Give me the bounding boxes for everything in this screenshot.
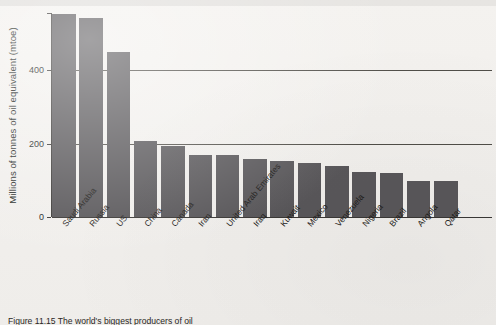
y-axis-title: Millions of tonnes of oil equivalent (mt… bbox=[7, 27, 18, 203]
y-tick-label: 400 bbox=[18, 65, 44, 75]
chart-plot-area: Millions of tonnes of oil equivalent (mt… bbox=[0, 0, 496, 325]
bar bbox=[134, 141, 158, 217]
figure-caption: Figure 11.15 The world's biggest produce… bbox=[8, 316, 193, 325]
figure-container: Millions of tonnes of oil equivalent (mt… bbox=[0, 0, 496, 325]
y-tick-label: 0 bbox=[18, 212, 44, 222]
bar bbox=[107, 52, 131, 217]
y-tick-label: 200 bbox=[18, 139, 44, 149]
bar bbox=[52, 14, 76, 217]
y-tick-mark bbox=[47, 217, 51, 218]
y-axis-title-container: Millions of tonnes of oil equivalent (mt… bbox=[2, 0, 22, 230]
